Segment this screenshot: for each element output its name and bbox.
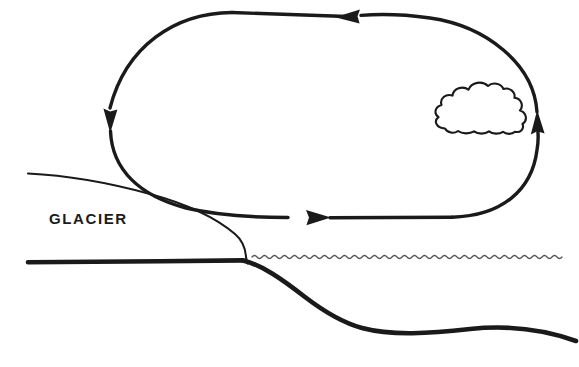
glacier-base-line <box>28 260 243 262</box>
arrowhead-bottom-right-pointing <box>306 210 331 225</box>
sea-surface-wavy-line <box>252 256 562 259</box>
cloud-icon <box>436 83 526 134</box>
diagram-canvas <box>0 0 579 367</box>
loop-bottom-segment <box>330 217 452 218</box>
loop-top-left-corner <box>110 13 232 109</box>
loop-bottom-right-corner <box>452 127 538 217</box>
arrowhead-right-up-pointing <box>531 110 545 135</box>
loop-top-segment <box>232 13 347 17</box>
glacier-label: GLACIER <box>49 210 128 227</box>
loop-left-lower-curve <box>111 131 289 218</box>
glacier-circulation-figure: GLACIER <box>0 0 579 367</box>
arrowhead-left-down-pointing <box>103 109 117 134</box>
seafloor-line <box>243 260 576 341</box>
arrowhead-top-left-pointing <box>335 10 360 24</box>
